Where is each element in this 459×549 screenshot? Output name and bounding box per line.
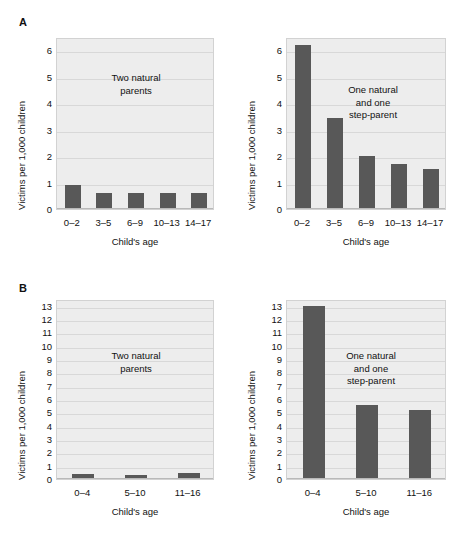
annotation-a-right: One natural and one step-parent xyxy=(321,84,425,122)
y-axis-ticks-b-right: 012345678910111213 xyxy=(256,300,282,480)
bar-0–4 xyxy=(303,306,325,479)
y-tick-label: 4 xyxy=(277,99,282,109)
gridline xyxy=(57,441,213,442)
axis-baseline xyxy=(57,478,213,479)
y-tick-label: 1 xyxy=(47,179,52,189)
y-tick-label: 5 xyxy=(47,409,52,419)
gridline xyxy=(57,105,213,106)
y-tick-label: 9 xyxy=(277,355,282,365)
y-tick-label: 12 xyxy=(41,315,52,325)
y-axis-ticks-a-right: 0123456 xyxy=(256,38,282,210)
y-tick-label: 6 xyxy=(47,46,52,56)
y-tick-label: 3 xyxy=(277,126,282,136)
bar-5–10 xyxy=(356,405,378,479)
x-tick-label: 3–5 xyxy=(95,217,111,228)
y-tick-label: 7 xyxy=(47,382,52,392)
axis-baseline xyxy=(57,208,213,209)
y-tick-label: 4 xyxy=(277,422,282,432)
y-tick-label: 13 xyxy=(41,302,52,312)
y-tick-label: 2 xyxy=(47,152,52,162)
y-tick-label: 11 xyxy=(272,329,282,339)
y-tick-label: 0 xyxy=(47,205,52,215)
bar-0–2 xyxy=(65,185,81,209)
y-tick-label: 10 xyxy=(41,342,52,352)
bar-3–5 xyxy=(96,193,112,209)
x-tick-label: 0–4 xyxy=(305,487,321,498)
y-tick-label: 6 xyxy=(277,395,282,405)
gridline xyxy=(57,468,213,469)
x-tick-label: 0–4 xyxy=(74,487,90,498)
y-tick-label: 8 xyxy=(277,369,282,379)
chart-b-one-step-parent: Victims per 1,000 children01234567891011… xyxy=(229,268,459,549)
x-axis-title-b-right: Child's age xyxy=(343,506,390,517)
annotation-a-left: Two natural parents xyxy=(86,72,186,97)
plot-area-a-left xyxy=(56,38,214,210)
x-tick-label: 14–17 xyxy=(417,217,443,228)
panel-b: B Victims per 1,000 children012345678910… xyxy=(0,268,459,549)
y-tick-label: 7 xyxy=(277,382,282,392)
y-tick-label: 0 xyxy=(47,475,52,485)
y-tick-label: 11 xyxy=(42,329,52,339)
bar-3–5 xyxy=(327,118,343,209)
x-tick-label: 0–2 xyxy=(64,217,80,228)
bar-10–13 xyxy=(391,164,407,209)
y-tick-label: 0 xyxy=(277,475,282,485)
axis-baseline xyxy=(287,478,445,479)
y-tick-label: 1 xyxy=(277,179,282,189)
x-tick-label: 0–2 xyxy=(294,217,310,228)
y-tick-label: 6 xyxy=(277,46,282,56)
plot-area-b-left xyxy=(56,300,214,480)
gridline xyxy=(57,401,213,402)
gridline xyxy=(57,334,213,335)
gridline xyxy=(57,454,213,455)
bar-11–16 xyxy=(409,410,431,479)
x-tick-label: 3–5 xyxy=(326,217,342,228)
y-tick-label: 5 xyxy=(277,73,282,83)
bar-0–2 xyxy=(295,45,311,209)
x-axis-title-b-left: Child's age xyxy=(112,506,159,517)
gridline xyxy=(57,414,213,415)
plot-area-b-right xyxy=(286,300,446,480)
y-tick-label: 1 xyxy=(277,462,282,472)
y-tick-label: 10 xyxy=(271,342,282,352)
y-tick-label: 1 xyxy=(47,462,52,472)
bar-14–17 xyxy=(423,169,439,209)
x-tick-label: 14–17 xyxy=(185,217,211,228)
figure-child-maltreatment-by-family-type: A Victims per 1,000 children0123456Two n… xyxy=(0,0,459,549)
y-tick-label: 2 xyxy=(277,449,282,459)
annotation-b-right: One natural and one step-parent xyxy=(317,350,425,388)
y-tick-label: 2 xyxy=(277,152,282,162)
x-tick-label: 5–10 xyxy=(124,487,145,498)
y-tick-label: 3 xyxy=(277,435,282,445)
y-tick-label: 4 xyxy=(47,99,52,109)
y-tick-label: 0 xyxy=(277,205,282,215)
gridline xyxy=(57,52,213,53)
bar-10–13 xyxy=(160,193,176,209)
annotation-b-left: Two natural parents xyxy=(82,350,190,375)
gridline xyxy=(57,348,213,349)
bar-6–9 xyxy=(128,193,144,209)
bar-14–17 xyxy=(191,193,207,209)
x-tick-label: 6–9 xyxy=(127,217,143,228)
y-tick-label: 5 xyxy=(47,73,52,83)
x-tick-label: 11–16 xyxy=(175,487,201,498)
gridline xyxy=(57,428,213,429)
y-axis-ticks-a-left: 0123456 xyxy=(26,38,52,210)
gridline xyxy=(57,388,213,389)
panel-a: A Victims per 1,000 children0123456Two n… xyxy=(0,0,459,268)
y-tick-label: 2 xyxy=(47,449,52,459)
y-tick-label: 8 xyxy=(47,369,52,379)
y-tick-label: 6 xyxy=(47,395,52,405)
y-tick-label: 9 xyxy=(47,355,52,365)
gridline xyxy=(57,158,213,159)
gridline xyxy=(57,132,213,133)
x-axis-title-a-left: Child's age xyxy=(112,236,159,247)
x-tick-label: 5–10 xyxy=(355,487,376,498)
x-tick-label: 10–13 xyxy=(153,217,179,228)
chart-a-two-natural-parents: Victims per 1,000 children0123456Two nat… xyxy=(0,0,229,268)
chart-b-two-natural-parents: Victims per 1,000 children01234567891011… xyxy=(0,268,229,549)
y-tick-label: 3 xyxy=(47,435,52,445)
x-tick-label: 11–16 xyxy=(406,487,432,498)
gridline xyxy=(57,321,213,322)
chart-a-one-step-parent: Victims per 1,000 children0123456One nat… xyxy=(229,0,459,268)
